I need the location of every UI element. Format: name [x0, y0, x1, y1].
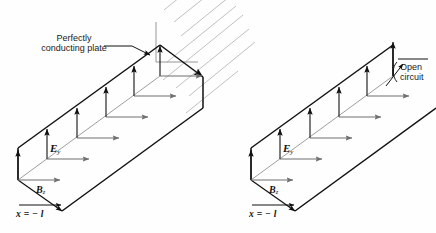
open-circuit-line2: circuit [400, 72, 424, 82]
e-field-arrows-left [18, 46, 160, 180]
open-circuit-label: Open circuit [400, 62, 434, 82]
b-field-label-right: Bz [269, 184, 278, 195]
b-field-symbol-right: B [269, 184, 276, 195]
b-field-label-left: Bz [36, 184, 45, 195]
b-field-arrows-right [251, 96, 409, 180]
figure-canvas: Perfectly conducting plate Open circuit … [0, 0, 436, 233]
ribbon-diagonals-right [251, 76, 393, 180]
b-field-subscript-right: z [276, 188, 278, 195]
plate-callout-line1: Perfectly [56, 33, 91, 43]
ribbon-diagonals-left [18, 76, 160, 180]
x-boundary-label-right: x = − l [249, 209, 277, 219]
b-field-symbol-left: B [36, 184, 43, 195]
x-boundary-label-left: x = − l [16, 209, 44, 219]
b-field-subscript-left: z [43, 188, 45, 195]
plate-callout-label: Perfectly conducting plate [26, 33, 122, 53]
e-field-subscript-right: y [290, 148, 293, 155]
plate-callout-line2: conducting plate [41, 43, 107, 53]
e-field-label-left: Ey [50, 142, 60, 155]
open-circuit-line1: Open [400, 62, 422, 72]
e-field-subscript-left: y [57, 148, 60, 155]
hatch-group-left [163, 0, 255, 113]
e-field-label-right: Ey [283, 142, 293, 155]
